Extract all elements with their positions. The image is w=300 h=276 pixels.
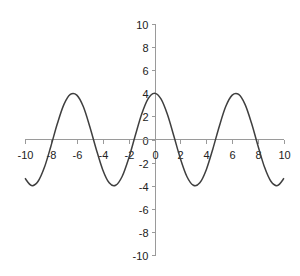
x-tick-label: 4 [203, 149, 209, 161]
x-tick-label: 0 [152, 149, 158, 161]
x-tick-label: -6 [73, 149, 83, 161]
y-tick-label: -4 [139, 181, 149, 193]
y-tick-label: -2 [139, 158, 149, 170]
y-tick-label: 2 [142, 111, 148, 123]
x-axis: -10-8-6-4-20246810 [18, 140, 291, 161]
x-tick-label: -4 [99, 149, 109, 161]
line-chart: 1086420-2-4-6-8-10 -10-8-6-4-20246810 [0, 0, 300, 276]
y-tick-label: -10 [133, 250, 149, 262]
x-axis-ticks [26, 140, 285, 144]
y-tick-label: 4 [142, 88, 148, 100]
y-tick-label: 8 [142, 42, 148, 54]
y-tick-label: -8 [139, 227, 149, 239]
x-tick-label: 6 [229, 149, 235, 161]
x-tick-label: -10 [18, 149, 34, 161]
y-tick-label: 6 [142, 65, 148, 77]
x-axis-tick-labels: -10-8-6-4-20246810 [18, 149, 291, 161]
y-tick-label: -6 [139, 204, 149, 216]
x-tick-label: 10 [278, 149, 290, 161]
y-tick-label: 0 [142, 135, 148, 147]
y-tick-label: 10 [136, 19, 148, 31]
